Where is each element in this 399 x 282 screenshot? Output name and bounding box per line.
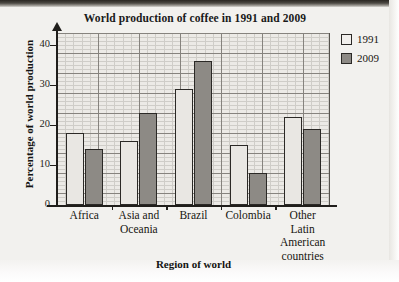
bar-africa-2009 — [85, 149, 103, 205]
bar-colombia-2009 — [249, 173, 267, 205]
legend-swatch-2009-icon — [341, 53, 352, 64]
legend-swatch-1991-icon — [341, 34, 352, 45]
y-axis-arrow-icon — [52, 22, 62, 31]
bar-africa-1991 — [66, 133, 84, 205]
bar-brazil-1991 — [175, 89, 193, 205]
y-tick-mark-0 — [50, 205, 57, 207]
bar-other-latin-american-countries-1991 — [284, 117, 302, 205]
bar-asia-and-oceania-1991 — [120, 141, 138, 205]
y-tick-mark-30 — [50, 85, 57, 87]
chart-page: World production of coffee in 1991 and 2… — [0, 0, 399, 282]
x-axis-label-line: Oceania — [104, 223, 175, 237]
plot-area — [57, 33, 330, 205]
y-tick-mark-20 — [50, 125, 57, 127]
x-axis-label-line: Latin — [267, 223, 338, 237]
x-axis-label-line: American — [267, 236, 338, 250]
bar-other-latin-american-countries-2009 — [303, 129, 321, 205]
legend-item-2009: 2009 — [341, 52, 393, 64]
x-axis-line — [47, 205, 337, 207]
legend-item-1991: 1991 — [341, 33, 393, 45]
x-axis-label-line: countries — [267, 250, 338, 264]
bar-colombia-1991 — [230, 145, 248, 205]
y-tick-mark-40 — [50, 45, 57, 47]
scan-artifact-top-band — [0, 0, 399, 7]
x-axis-label-other-latin-american-countries: OtherLatinAmericancountries — [267, 209, 338, 263]
chart-legend: 1991 2009 — [341, 33, 393, 71]
x-axis-label-line: Other — [267, 209, 338, 223]
legend-label-2009: 2009 — [357, 52, 379, 64]
chart-title: World production of coffee in 1991 and 2… — [50, 12, 340, 24]
plot-right-border — [329, 33, 330, 205]
y-axis-line — [56, 29, 58, 206]
y-axis-title: Percentage of world production — [23, 24, 35, 204]
bar-brazil-2009 — [194, 61, 212, 205]
y-tick-mark-10 — [50, 165, 57, 167]
legend-label-1991: 1991 — [357, 33, 379, 45]
bar-asia-and-oceania-2009 — [139, 113, 157, 205]
